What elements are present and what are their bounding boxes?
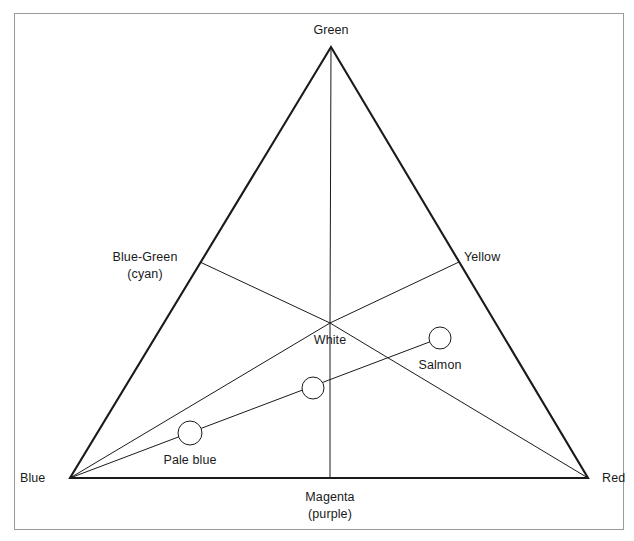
vertex-label-red: Red: [602, 470, 625, 487]
line-blue-to-salmon: [70, 338, 440, 478]
vertex-label-blue: Blue: [20, 470, 45, 487]
sample-circle-pale-blue: [178, 421, 202, 445]
line-white-to-red: [330, 323, 588, 478]
edge-label-magenta-main: Magenta: [305, 489, 354, 506]
line-white-to-cyan: [200, 262, 330, 323]
sample-circle-middle: [302, 377, 324, 399]
edge-label-purple-paren: (purple): [305, 506, 354, 523]
sample-label-pale-blue: Pale blue: [163, 452, 216, 469]
line-white-to-green: [330, 47, 331, 323]
edge-label-magenta: Magenta (purple): [305, 489, 354, 523]
vertex-label-green: Green: [313, 22, 348, 39]
edge-label-blue-green: Blue-Green (cyan): [113, 249, 178, 283]
edge-label-cyan-paren: (cyan): [113, 266, 178, 283]
figure-page: Green Blue Red Blue-Green (cyan) Yellow …: [0, 0, 634, 541]
sample-label-salmon: Salmon: [419, 357, 462, 374]
sample-circle-salmon: [429, 327, 451, 349]
edge-label-yellow: Yellow: [464, 249, 500, 266]
sample-connector-lines: [70, 338, 440, 478]
color-triangle-diagram: [0, 0, 634, 541]
edge-label-blue-green-main: Blue-Green: [113, 249, 178, 266]
line-white-to-yellow: [330, 262, 459, 323]
center-label-white: White: [314, 332, 346, 349]
